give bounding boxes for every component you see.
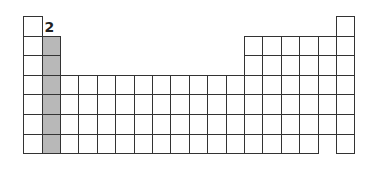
element-cell-p2-g1 (23, 36, 43, 57)
element-cell-p2-g13 (244, 36, 264, 57)
element-cell-p6-g12 (225, 114, 245, 135)
element-cell-p6-g6 (115, 114, 135, 135)
element-cell-p7-g2 (41, 133, 61, 154)
element-cell-p4-g1 (23, 75, 43, 96)
element-cell-p6-g13 (244, 114, 264, 135)
element-cell-p4-g9 (170, 75, 190, 96)
element-cell-p5-g18 (336, 94, 356, 115)
element-cell-p3-g1 (23, 55, 43, 76)
element-cell-p5-g8 (152, 94, 172, 115)
element-cell-p7-g11 (207, 133, 227, 154)
element-cell-p7-g8 (152, 133, 172, 154)
element-cell-p4-g6 (115, 75, 135, 96)
element-cell-p5-g9 (170, 94, 190, 115)
element-cell-p6-g1 (23, 114, 43, 135)
element-cell-p4-g16 (299, 75, 319, 96)
element-cell-p4-g15 (281, 75, 301, 96)
element-cell-p6-g3 (60, 114, 80, 135)
element-cell-p4-g13 (244, 75, 264, 96)
element-cell-p5-g2 (41, 94, 61, 115)
element-cell-p6-g18 (336, 114, 356, 135)
element-cell-p7-g3 (60, 133, 80, 154)
element-cell-p5-g12 (225, 94, 245, 115)
element-cell-p3-g17 (317, 55, 337, 76)
element-cell-p4-g10 (189, 75, 209, 96)
element-cell-p2-g17 (317, 36, 337, 57)
element-cell-p4-g8 (152, 75, 172, 96)
element-cell-p2-g16 (299, 36, 319, 57)
element-cell-p7-g14 (262, 133, 282, 154)
element-cell-p7-g6 (115, 133, 135, 154)
element-cell-p5-g3 (60, 94, 80, 115)
element-cell-p6-g8 (152, 114, 172, 135)
element-cell-p6-g16 (299, 114, 319, 135)
element-cell-p6-g7 (133, 114, 153, 135)
element-cell-p3-g13 (244, 55, 264, 76)
element-cell-p6-g11 (207, 114, 227, 135)
element-cell-p6-g15 (281, 114, 301, 135)
element-cell-p2-g2 (41, 36, 61, 57)
element-cell-p3-g16 (299, 55, 319, 76)
element-cell-p7-g12 (225, 133, 245, 154)
periodic-table-grid: 2 (0, 0, 381, 169)
element-cell-p7-g4 (78, 133, 98, 154)
element-cell-p3-g15 (281, 55, 301, 76)
element-cell-p5-g16 (299, 94, 319, 115)
element-cell-p4-g18 (336, 75, 356, 96)
element-cell-p4-g17 (317, 75, 337, 96)
element-cell-p3-g14 (262, 55, 282, 76)
element-cell-p5-g4 (78, 94, 98, 115)
element-cell-p4-g3 (60, 75, 80, 96)
element-cell-p7-g16 (299, 133, 319, 154)
element-cell-p5-g5 (97, 94, 117, 115)
element-cell-p6-g9 (170, 114, 190, 135)
element-cell-p7-g1 (23, 133, 43, 154)
element-cell-p7-g9 (170, 133, 190, 154)
element-cell-p6-g10 (189, 114, 209, 135)
element-cell-p5-g15 (281, 94, 301, 115)
element-cell-p5-g17 (317, 94, 337, 115)
element-cell-p4-g11 (207, 75, 227, 96)
element-cell-p2-g18 (336, 36, 356, 57)
element-cell-p2-g15 (281, 36, 301, 57)
element-cell-p5-g6 (115, 94, 135, 115)
element-cell-p7-g18 (336, 133, 356, 154)
element-cell-p5-g7 (133, 94, 153, 115)
element-cell-p4-g5 (97, 75, 117, 96)
element-cell-p4-g12 (225, 75, 245, 96)
element-cell-p6-g17 (317, 114, 337, 135)
element-cell-p7-g13 (244, 133, 264, 154)
element-cell-p6-g4 (78, 114, 98, 135)
element-cell-p5-g11 (207, 94, 227, 115)
element-cell-p5-g10 (189, 94, 209, 115)
element-cell-p1-g18 (336, 16, 356, 37)
element-cell-p4-g2 (41, 75, 61, 96)
element-cell-p3-g2 (41, 55, 61, 76)
group-2-label: 2 (44, 20, 54, 34)
element-cell-p6-g14 (262, 114, 282, 135)
element-cell-p7-g10 (189, 133, 209, 154)
element-cell-p5-g1 (23, 94, 43, 115)
element-cell-p5-g14 (262, 94, 282, 115)
element-cell-p5-g13 (244, 94, 264, 115)
element-cell-p4-g7 (133, 75, 153, 96)
element-cell-p3-g18 (336, 55, 356, 76)
element-cell-p1-g1 (23, 16, 43, 37)
element-cell-p7-g15 (281, 133, 301, 154)
element-cell-p7-g7 (133, 133, 153, 154)
element-cell-p6-g5 (97, 114, 117, 135)
element-cell-p7-g5 (97, 133, 117, 154)
element-cell-p6-g2 (41, 114, 61, 135)
element-cell-p4-g4 (78, 75, 98, 96)
element-cell-p2-g14 (262, 36, 282, 57)
element-cell-p4-g14 (262, 75, 282, 96)
